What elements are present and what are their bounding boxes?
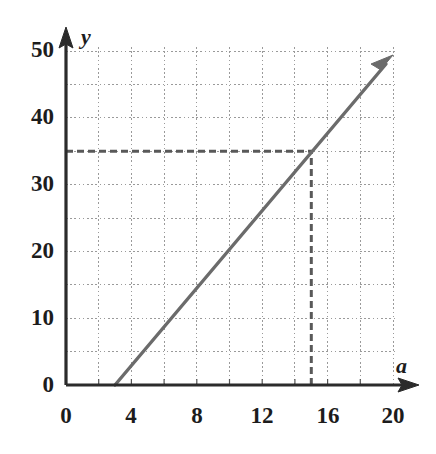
y-tick-label-40: 40 — [6, 105, 54, 128]
chart-figure: y a 50 40 30 20 10 0 0 4 8 12 16 20 — [0, 0, 436, 454]
grid-vertical — [99, 47, 393, 385]
data-line — [115, 64, 386, 385]
y-tick-label-20: 20 — [6, 239, 54, 262]
x-tick-label-8: 8 — [172, 404, 222, 427]
y-tick-label-10: 10 — [6, 306, 54, 329]
y-tick-label-50: 50 — [6, 38, 54, 61]
y-axis-label: y — [81, 26, 91, 48]
x-axis-label: a — [396, 355, 407, 377]
x-tick-label-12: 12 — [237, 404, 287, 427]
y-tick-label-30: 30 — [6, 172, 54, 195]
y-tick-label-0: 0 — [6, 373, 54, 396]
grid-horizontal — [66, 51, 398, 352]
x-tick-label-0: 0 — [41, 404, 91, 427]
x-tick-label-16: 16 — [303, 404, 353, 427]
x-tick-label-4: 4 — [106, 404, 156, 427]
plot-area — [0, 0, 436, 454]
x-tick-label-20: 20 — [368, 404, 418, 427]
